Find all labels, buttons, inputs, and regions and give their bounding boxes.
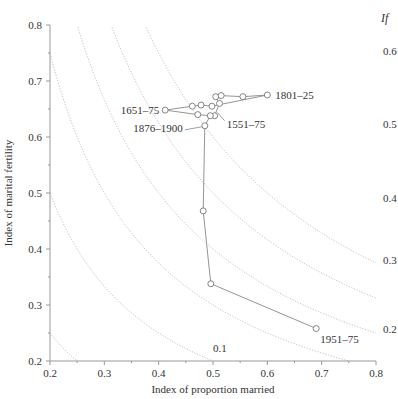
y-tick-label: 0.5 [28,187,42,199]
y-tick-label: 0.3 [28,299,42,311]
iso-curve-0.1 [50,333,76,360]
iso-curve-0.5 [112,27,376,298]
iso-label-0.3: 0.3 [383,254,397,266]
data-point [213,94,219,100]
y-tick-label: 0.2 [28,355,42,367]
x-axis-title: Index of proportion married [151,383,275,395]
x-tick-label: 0.7 [315,367,329,379]
leader-line [185,127,202,130]
data-point [198,102,204,108]
y-tick-label: 0.8 [28,19,42,31]
iso-curves [50,27,376,361]
iso-curve-0.6 [146,28,376,264]
data-point [264,92,270,98]
data-point [202,123,208,129]
iso-label-0.4: 0.4 [383,192,397,204]
point-label: 1951–75 [320,333,359,345]
trajectory-line [165,95,316,329]
labels: 0.10.20.30.40.50.6If1551–751801–251651–7… [121,11,398,354]
x-tick-label: 0.8 [369,367,383,379]
point-label: 1651–75 [121,104,160,116]
iso-curve-0.4 [78,27,376,333]
data-point [217,100,223,106]
point-label: 1876–1900 [133,122,183,134]
point-label: 1551–75 [227,118,266,130]
iso-curve-0.2 [50,193,211,360]
iso-label-0.1: 0.1 [213,342,227,354]
iso-label-0.6: 0.6 [383,45,397,57]
y-axis-title: Index of marital fertility [2,139,14,246]
point-label: 1801–25 [275,89,314,101]
leader-line [218,113,225,121]
iso-label-0.5: 0.5 [383,118,397,130]
data-point [218,93,224,99]
data-point [189,103,195,109]
data-point [200,208,206,214]
y-tick-label: 0.4 [28,243,42,255]
x-tick-label: 0.5 [206,367,220,379]
data-point [207,113,213,119]
chart-svg: 0.20.30.40.50.60.70.80.20.30.40.50.60.70… [0,0,398,399]
iso-label-0.2: 0.2 [383,323,397,335]
data-point [240,94,246,100]
y-tick-label: 0.6 [28,131,42,143]
data-point [195,112,201,118]
data-point [162,107,168,113]
y-tick-label: 0.7 [28,75,42,87]
data-point [313,326,319,332]
data-point [209,103,215,109]
x-tick-label: 0.2 [43,367,57,379]
data-point [208,281,214,287]
x-tick-label: 0.6 [260,367,274,379]
x-tick-label: 0.3 [97,367,111,379]
iso-title-if: If [380,11,390,25]
x-tick-label: 0.4 [152,367,166,379]
